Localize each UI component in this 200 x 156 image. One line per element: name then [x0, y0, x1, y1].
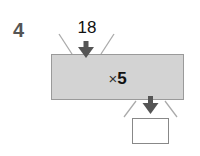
answer-box[interactable]	[132, 118, 169, 144]
machine-arrows	[0, 0, 200, 156]
output-funnel-left	[124, 101, 136, 117]
input-funnel-right	[101, 34, 114, 54]
arrow-down-icon	[78, 41, 94, 58]
output-funnel-right	[165, 101, 177, 117]
arrow-down-icon	[143, 96, 159, 114]
input-funnel-left	[59, 34, 72, 54]
